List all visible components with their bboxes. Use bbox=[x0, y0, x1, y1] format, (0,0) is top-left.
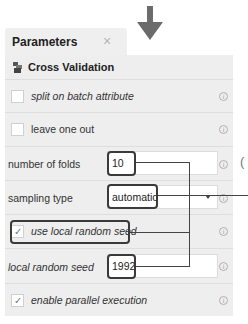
connector-use-seed bbox=[130, 232, 190, 233]
param-label: use local random seed bbox=[31, 225, 137, 237]
param-label: local random seed bbox=[8, 261, 94, 273]
parameters-tab[interactable]: Parameters × bbox=[5, 28, 127, 56]
split-on-batch-checkbox[interactable] bbox=[11, 90, 24, 103]
connector-seed bbox=[136, 266, 190, 267]
leave-one-out-checkbox[interactable] bbox=[11, 123, 24, 136]
cross-validation-icon bbox=[13, 62, 24, 73]
param-label: enable parallel execution bbox=[31, 294, 147, 306]
partial-glyph: ( bbox=[240, 154, 244, 169]
param-sampling-type: sampling type automatic i bbox=[5, 181, 233, 215]
info-icon[interactable]: i bbox=[219, 296, 228, 305]
section-title: Cross Validation bbox=[28, 61, 114, 73]
info-icon[interactable]: i bbox=[219, 92, 228, 101]
sampling-type-select[interactable]: automatic bbox=[107, 185, 218, 209]
down-arrow-icon bbox=[137, 6, 163, 40]
use-local-random-seed-checkbox[interactable]: ✓ bbox=[11, 225, 24, 238]
param-label: number of folds bbox=[8, 158, 80, 170]
connector-sampling bbox=[158, 195, 248, 196]
info-icon[interactable]: i bbox=[219, 262, 228, 271]
param-label: leave one out bbox=[31, 123, 94, 135]
tab-title: Parameters bbox=[12, 35, 77, 49]
info-icon[interactable]: i bbox=[219, 227, 228, 236]
param-enable-parallel: ✓ enable parallel execution i bbox=[5, 284, 233, 316]
param-local-random-seed: local random seed 1992 i bbox=[5, 249, 233, 284]
param-leave-one-out: leave one out i bbox=[5, 113, 233, 147]
enable-parallel-checkbox[interactable]: ✓ bbox=[11, 294, 24, 307]
param-use-local-random-seed: ✓ use local random seed i bbox=[5, 215, 233, 249]
section-header: Cross Validation bbox=[5, 55, 233, 80]
param-split-on-batch: split on batch attribute i bbox=[5, 80, 233, 113]
param-number-of-folds: number of folds 10 i bbox=[5, 147, 233, 181]
info-icon[interactable]: i bbox=[219, 125, 228, 134]
connector-folds bbox=[136, 162, 190, 163]
parameters-panel: Cross Validation split on batch attribut… bbox=[5, 55, 233, 316]
info-icon[interactable]: i bbox=[219, 160, 228, 169]
param-label: sampling type bbox=[8, 192, 73, 204]
number-of-folds-input[interactable]: 10 bbox=[107, 151, 218, 175]
connector-vertical bbox=[189, 162, 190, 267]
param-label: split on batch attribute bbox=[31, 90, 134, 102]
close-icon[interactable]: × bbox=[103, 33, 111, 49]
